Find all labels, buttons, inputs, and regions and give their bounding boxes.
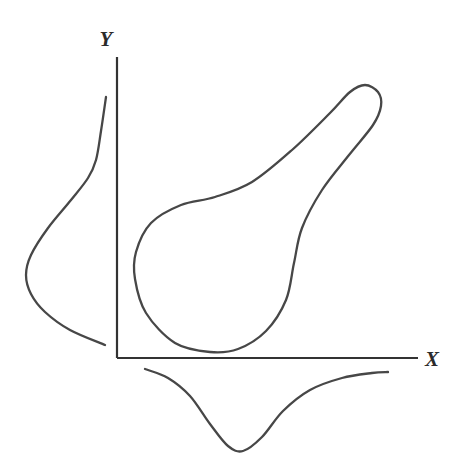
marginal-density-x-curve (145, 369, 388, 451)
joint-support-contour (134, 85, 381, 352)
x-axis-label: X (424, 347, 440, 371)
y-axis-label: Y (100, 27, 115, 51)
figure-container: Y X (0, 0, 462, 468)
axes-group (117, 57, 418, 358)
marginal-density-y-curve (26, 97, 106, 345)
curves-group (26, 85, 388, 451)
joint-distribution-figure: Y X (0, 0, 462, 468)
